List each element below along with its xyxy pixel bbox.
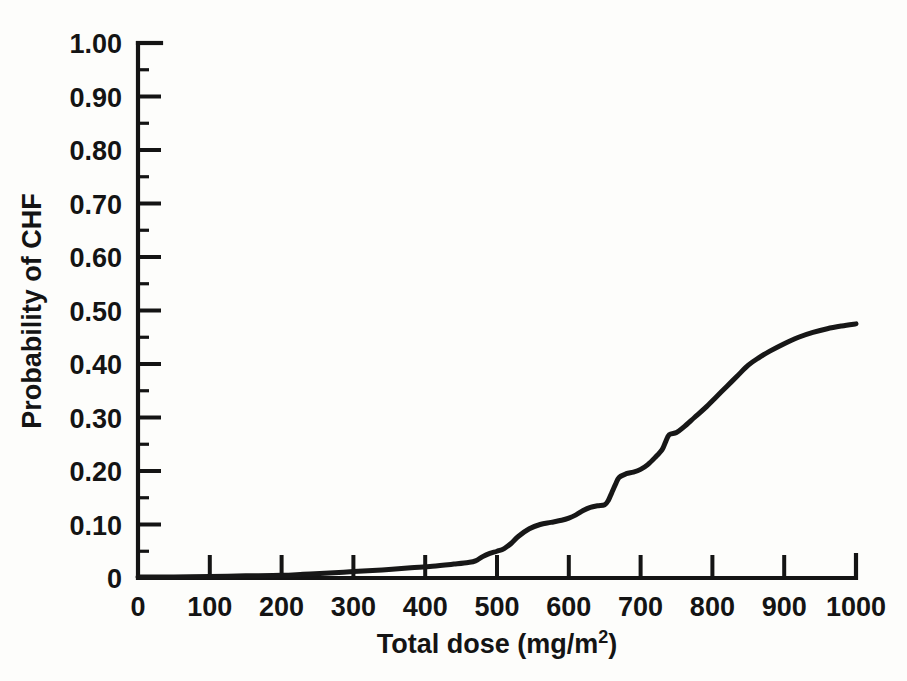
x-tick-label-100: 100 xyxy=(187,592,232,622)
plot-axes xyxy=(138,43,856,578)
x-tick-label-300: 300 xyxy=(331,592,376,622)
y-tick-label-0.70: 0.70 xyxy=(69,190,122,220)
data-series-probability-of-chf xyxy=(138,324,856,577)
x-tick-label-900: 900 xyxy=(762,592,807,622)
x-tick-label-800: 800 xyxy=(690,592,735,622)
x-tick-label-400: 400 xyxy=(403,592,448,622)
y-tick-label-0.50: 0.50 xyxy=(69,297,122,327)
x-tick-label-200: 200 xyxy=(259,592,304,622)
chart-canvas: 00.100.200.300.400.500.600.700.800.901.0… xyxy=(0,0,907,681)
y-tick-label-1.00: 1.00 xyxy=(69,29,122,59)
x-tick-label-1000: 1000 xyxy=(826,592,886,622)
chart-figure: 00.100.200.300.400.500.600.700.800.901.0… xyxy=(0,0,907,681)
axis-lines xyxy=(138,43,856,578)
y-axis-title-group: Probability of CHF xyxy=(17,193,47,429)
x-tick-label-500: 500 xyxy=(474,592,519,622)
x-tick-label-0: 0 xyxy=(130,592,145,622)
y-tick-label-0.90: 0.90 xyxy=(69,83,122,113)
y-tick-label-0.60: 0.60 xyxy=(69,243,122,273)
y-tick-label-0.80: 0.80 xyxy=(69,136,122,166)
y-tick-label-0.40: 0.40 xyxy=(69,350,122,380)
y-axis-title: Probability of CHF xyxy=(17,193,47,429)
x-axis-tick-labels: 01002003004005006007008009001000 xyxy=(130,592,886,622)
y-axis-major-ticks xyxy=(138,97,161,525)
x-axis-title-group: Total dose (mg/m2) xyxy=(377,627,618,659)
x-axis-title: Total dose (mg/m2) xyxy=(377,627,618,659)
x-tick-label-700: 700 xyxy=(618,592,663,622)
x-tick-label-600: 600 xyxy=(546,592,591,622)
y-axis-tick-labels: 00.100.200.300.400.500.600.700.800.901.0… xyxy=(69,29,122,594)
y-tick-label-0.20: 0.20 xyxy=(69,457,122,487)
y-tick-label-0.10: 0.10 xyxy=(69,511,122,541)
y-tick-label-0: 0 xyxy=(107,564,122,594)
y-tick-label-0.30: 0.30 xyxy=(69,404,122,434)
